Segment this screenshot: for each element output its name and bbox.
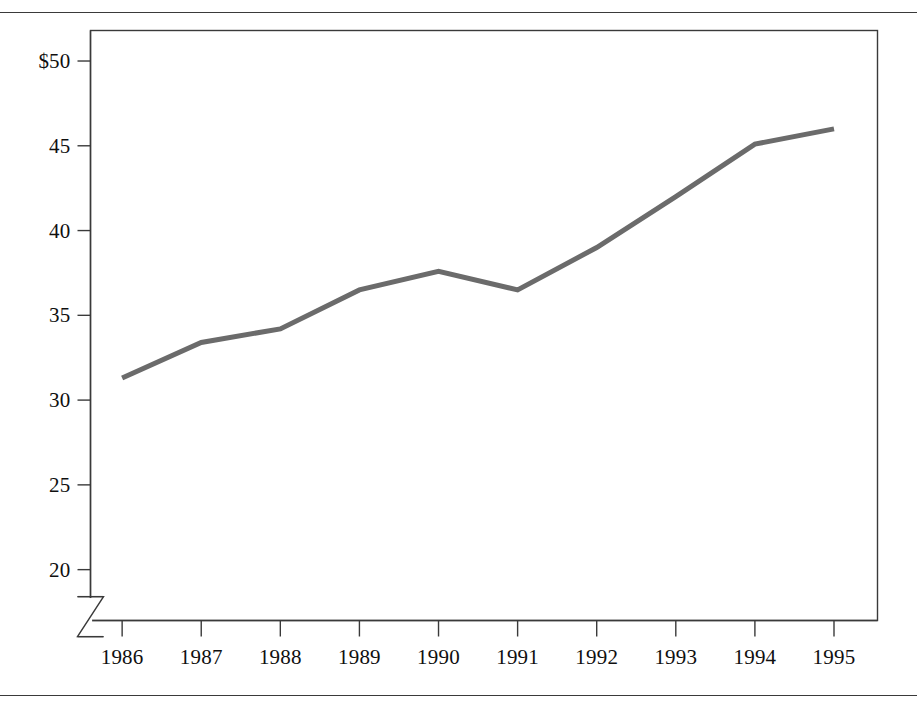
y-tick-label: 30 <box>49 388 70 413</box>
plot-frame <box>91 31 878 621</box>
x-tick-label: 1991 <box>496 645 539 670</box>
y-tick-label: $50 <box>38 49 70 74</box>
data-series-group <box>122 129 834 378</box>
y-tick-label: 25 <box>49 472 70 497</box>
x-tick-label: 1992 <box>575 645 618 670</box>
x-tick-label: 1987 <box>180 645 223 670</box>
x-tick-label: 1993 <box>654 645 697 670</box>
x-tick-label: 1995 <box>813 645 856 670</box>
x-tick-label: 1986 <box>101 645 144 670</box>
y-axis-ticks <box>78 61 91 570</box>
x-tick-label: 1994 <box>733 645 776 670</box>
x-tick-label: 1990 <box>417 645 460 670</box>
y-axis-break-icon <box>78 597 104 637</box>
x-tick-label: 1989 <box>338 645 381 670</box>
y-tick-label: 20 <box>49 557 70 582</box>
y-tick-label: 45 <box>49 133 70 158</box>
line-chart <box>0 0 917 709</box>
x-axis-ticks <box>122 621 834 637</box>
y-tick-label: 35 <box>49 303 70 328</box>
y-tick-label: 40 <box>49 218 70 243</box>
data-line <box>122 129 834 378</box>
x-tick-label: 1988 <box>259 645 302 670</box>
figure-container: 202530354045$50 198619871988198919901991… <box>0 0 917 709</box>
